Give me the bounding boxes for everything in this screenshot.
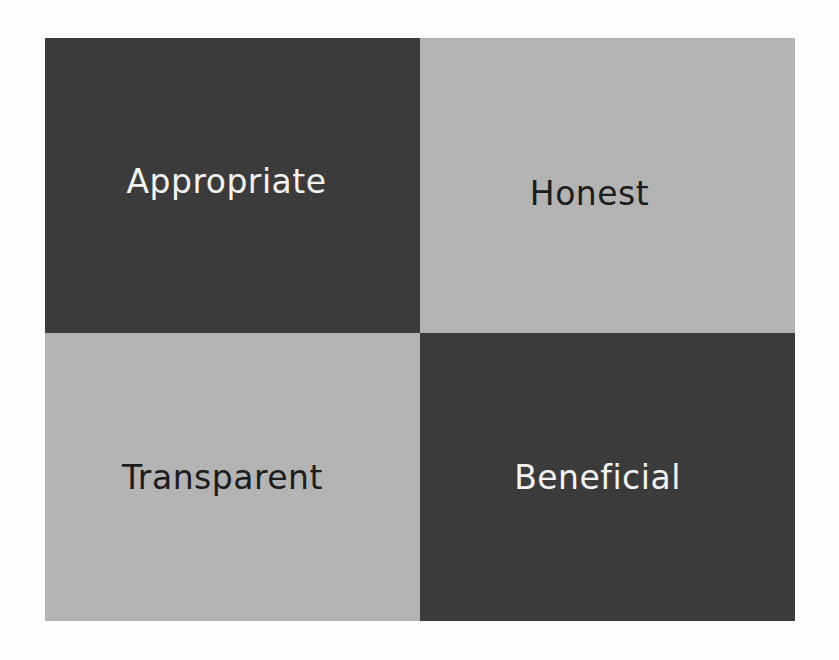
quadrant-label: Honest: [530, 174, 649, 213]
quadrant-label: Transparent: [122, 458, 323, 497]
quadrant-honest: Honest: [420, 38, 795, 333]
quadrant-label: Beneficial: [514, 458, 681, 497]
quadrant-beneficial: Beneficial: [420, 333, 795, 621]
quadrant-label: Appropriate: [126, 162, 326, 201]
quadrant-transparent: Transparent: [45, 333, 420, 621]
quadrant-grid: Appropriate Honest Transparent Beneficia…: [45, 38, 795, 621]
quadrant-appropriate: Appropriate: [45, 38, 420, 333]
